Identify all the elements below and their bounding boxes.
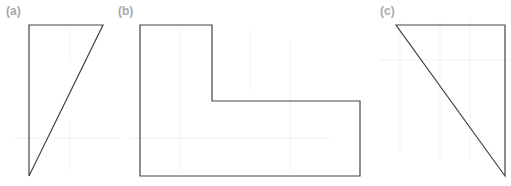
figure-c-triangle xyxy=(396,25,505,176)
figure-a-triangle xyxy=(29,25,103,176)
diagram-canvas xyxy=(0,0,511,186)
background-grid xyxy=(15,20,511,170)
